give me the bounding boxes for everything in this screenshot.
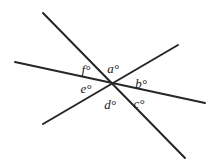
steep-falling-line: [43, 13, 185, 158]
angle-label-b: b°: [135, 77, 147, 90]
rising-line: [43, 45, 178, 124]
lines-canvas: [0, 0, 216, 163]
angle-label-c: c°: [134, 97, 145, 110]
angle-label-e: e°: [81, 82, 92, 95]
angle-label-d: d°: [104, 98, 116, 111]
angle-label-a: a°: [107, 62, 119, 75]
angle-label-f: f°: [82, 63, 91, 76]
geometry-figure: a°b°c°d°e°f°: [0, 0, 216, 163]
